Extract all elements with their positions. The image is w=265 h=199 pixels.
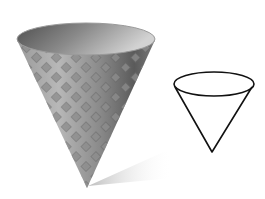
cone-outline [174, 72, 254, 152]
cone-illustration [0, 0, 265, 199]
